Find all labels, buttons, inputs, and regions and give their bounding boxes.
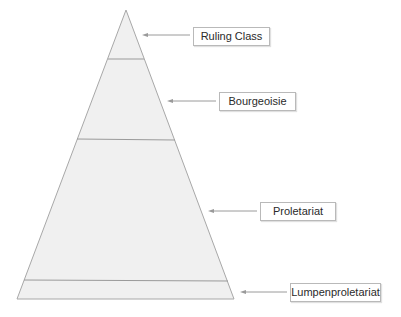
arrow-proletariat	[208, 209, 257, 213]
arrow-bourgeoisie	[167, 99, 216, 103]
pyramid-diagram	[0, 0, 401, 317]
label-lumpenproletariat: Lumpenproletariat	[290, 283, 381, 302]
label-ruling-class: Ruling Class	[193, 27, 270, 46]
pyramid-shape	[17, 10, 234, 299]
arrow-ruling-class	[142, 33, 190, 37]
arrow-lumpenproletariat	[240, 290, 287, 294]
label-bourgeoisie: Bourgeoisie	[219, 92, 296, 111]
label-proletariat: Proletariat	[260, 202, 336, 221]
